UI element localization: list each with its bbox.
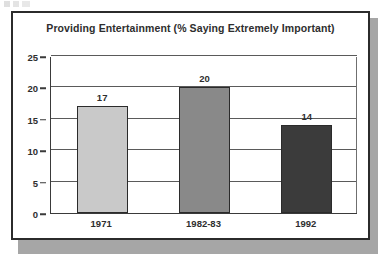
bars-layer: 172014 xyxy=(51,57,357,213)
y-axis-tick-mark xyxy=(40,150,46,152)
y-axis: 0510152025 xyxy=(13,57,46,214)
bar-value-label: 17 xyxy=(97,92,108,103)
y-axis-tick-mark xyxy=(40,119,46,121)
x-axis: 19711982-831992 xyxy=(50,218,357,236)
y-axis-tick-label: 25 xyxy=(27,52,38,63)
gridline xyxy=(51,55,357,56)
bar-1982-83 xyxy=(179,87,230,213)
y-axis-tick-label: 20 xyxy=(27,83,38,94)
y-axis-tick-label: 15 xyxy=(27,114,38,125)
y-axis-tick-label: 0 xyxy=(33,209,38,220)
bar-1992 xyxy=(281,125,332,213)
chart-figure: Providing Entertainment (% Saying Extrem… xyxy=(11,11,370,240)
y-axis-tick-label: 5 xyxy=(33,177,38,188)
chart-title: Providing Entertainment (% Saying Extrem… xyxy=(13,22,368,34)
bar-1971 xyxy=(77,106,128,213)
bar-value-label: 14 xyxy=(302,111,313,122)
y-axis-tick-mark xyxy=(40,56,46,58)
y-axis-tick-mark xyxy=(40,88,46,90)
y-axis-tick-label: 10 xyxy=(27,146,38,157)
y-axis-tick-mark xyxy=(40,213,46,215)
y-axis-tick-mark xyxy=(40,182,46,184)
x-axis-tick-label: 1992 xyxy=(295,218,316,229)
scan-artifact xyxy=(4,1,30,7)
x-axis-tick-label: 1971 xyxy=(91,218,112,229)
x-axis-tick-label: 1982-83 xyxy=(186,218,221,229)
bar-value-label: 20 xyxy=(199,73,210,84)
plot-area: 172014 xyxy=(50,57,357,214)
